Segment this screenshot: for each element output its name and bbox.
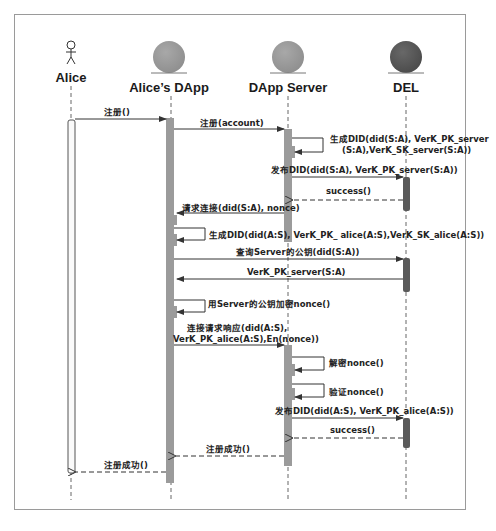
message-self-generate-did-alice: 生成DID(did(A:S), VerK_PK_ alice(A:S),VerK… (174, 228, 484, 240)
message-request-connect: 请求连接(did(S:A), nonce) (177, 203, 300, 213)
participant-del-label: DEL (393, 80, 419, 95)
participant-del: DEL (388, 41, 424, 95)
svg-text:连接请求响应(did(A:S),: 连接请求响应(did(A:S), (187, 323, 287, 333)
activation-server-1 (284, 129, 292, 242)
svg-text:发布DID(did(S:A), VerK_PK_server: 发布DID(did(S:A), VerK_PK_server(S:A)) (270, 165, 458, 175)
message-register-account: 注册(account) (174, 118, 284, 129)
entity-sphere-icon (390, 41, 422, 73)
svg-text:success(): success() (326, 186, 371, 196)
svg-text:注册成功(): 注册成功() (206, 444, 250, 454)
message-verk-pk-server: VerK_PK_server(S:A) (177, 267, 403, 279)
participant-dapp-label: Alice’s DApp (129, 80, 209, 95)
activation-dapp (166, 118, 174, 483)
message-publish-did-server: 发布DID(did(S:A), VerK_PK_server(S:A)) (270, 165, 458, 177)
message-success-2: success() (293, 425, 403, 438)
sequence-diagram: Alice Alice’s DApp DApp Server DEL 注 (0, 0, 496, 531)
svg-text:生成DID(did(A:S), VerK_PK_ alice: 生成DID(did(A:S), VerK_PK_ alice(A:S),VerK… (209, 230, 484, 240)
svg-text:发布DID(did(A:S), VerK_PK_alice(: 发布DID(did(A:S), VerK_PK_alice(A:S)) (274, 406, 454, 416)
participant-server-label: DApp Server (249, 80, 328, 95)
message-connect-response: 连接请求响应(did(A:S), VerK_PK_alice(A:S),En(n… (173, 323, 319, 345)
activation-del-3 (403, 418, 410, 448)
activation-del-2 (403, 258, 410, 292)
activation-alice (68, 120, 75, 473)
svg-text:注册成功(): 注册成功() (104, 460, 148, 470)
svg-text:注册(account): 注册(account) (200, 118, 264, 128)
actor-alice: Alice (55, 41, 86, 85)
svg-text:生成DID(did(S:A), VerK_PK_server: 生成DID(did(S:A), VerK_PK_server (330, 134, 490, 144)
message-self-generate-did-server: 生成DID(did(S:A), VerK_PK_server (S:A),Ver… (292, 134, 490, 155)
svg-text:查询Server的公钥(did(S:A)): 查询Server的公钥(did(S:A)) (235, 247, 359, 257)
message-register-success-1: 注册成功() (176, 444, 284, 456)
message-success-1: success() (293, 186, 403, 200)
message-self-decrypt-nonce: 解密nonce() (292, 357, 384, 370)
message-register: 注册() (75, 107, 166, 119)
svg-text:VerK_PK_server(S:A): VerK_PK_server(S:A) (247, 267, 345, 277)
actor-head-icon (67, 41, 75, 49)
message-publish-did-alice: 发布DID(did(A:S), VerK_PK_alice(A:S)) (274, 406, 454, 418)
participant-alice-label: Alice (55, 70, 86, 85)
svg-text:(S:A),VerK_SK_server(S:A)): (S:A),VerK_SK_server(S:A)) (342, 145, 471, 155)
entity-sphere-icon (272, 41, 304, 73)
svg-text:请求连接(did(S:A), nonce): 请求连接(did(S:A), nonce) (182, 203, 300, 213)
participant-dapp-server: DApp Server (249, 41, 328, 95)
svg-text:VerK_PK_alice(A:S),En(nonce)): VerK_PK_alice(A:S),En(nonce)) (173, 334, 319, 344)
message-self-verify-nonce: 验证nonce() (292, 384, 384, 397)
svg-text:解密nonce(): 解密nonce() (329, 358, 384, 368)
message-self-encrypt-nonce: 用Server的公钥加密nonce() (174, 299, 330, 312)
message-register-success-2: 注册成功() (76, 460, 166, 472)
entity-sphere-icon (153, 41, 185, 73)
svg-text:验证nonce(): 验证nonce() (329, 387, 384, 397)
svg-text:success(): success() (330, 425, 375, 435)
svg-text:用Server的公钥加密nonce(): 用Server的公钥加密nonce() (207, 299, 330, 309)
activation-del-1 (403, 177, 410, 211)
participant-alices-dapp: Alice’s DApp (129, 41, 209, 95)
svg-text:注册(): 注册() (104, 107, 130, 117)
